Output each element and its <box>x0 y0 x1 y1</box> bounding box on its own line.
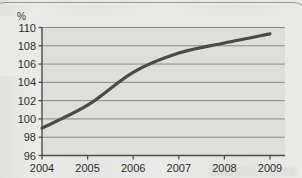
x-axis-tick-label: 2004 <box>30 162 54 174</box>
line-chart: % 9698100102104106108110 200420052006200… <box>0 0 302 178</box>
x-axis-tick-label: 2005 <box>75 162 99 174</box>
x-axis-tick-labels: 200420052006200720082009 <box>0 0 302 178</box>
x-axis-tick-label: 2006 <box>121 162 145 174</box>
x-axis-tick-label: 2007 <box>167 162 191 174</box>
scan-artifact <box>210 167 296 176</box>
